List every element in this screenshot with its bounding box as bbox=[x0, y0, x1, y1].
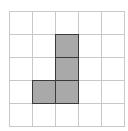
grid-cell bbox=[78, 34, 102, 58]
grid-cell bbox=[32, 103, 56, 127]
filled-cell bbox=[55, 80, 79, 104]
grid-cell bbox=[32, 34, 56, 58]
grid-cell bbox=[78, 103, 102, 127]
filled-cell bbox=[32, 80, 56, 104]
grid-cell bbox=[101, 57, 125, 81]
grid-cell bbox=[9, 34, 33, 58]
filled-cell bbox=[55, 34, 79, 58]
filled-cell bbox=[55, 57, 79, 81]
grid-cell bbox=[55, 11, 79, 35]
grid-cell bbox=[78, 57, 102, 81]
grid-cell bbox=[101, 80, 125, 104]
grid-cell bbox=[9, 103, 33, 127]
grid-cell bbox=[32, 57, 56, 81]
grid-cell bbox=[55, 103, 79, 127]
grid-cell bbox=[101, 103, 125, 127]
grid-cell bbox=[9, 80, 33, 104]
grid-cell bbox=[101, 11, 125, 35]
grid-cell bbox=[78, 80, 102, 104]
grid-cell bbox=[32, 11, 56, 35]
grid-cell bbox=[9, 11, 33, 35]
grid-cell bbox=[101, 34, 125, 58]
grid-cell bbox=[78, 11, 102, 35]
grid-cell bbox=[9, 57, 33, 81]
